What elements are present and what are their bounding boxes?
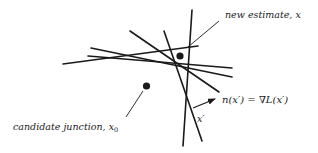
x-prime-label: x′ bbox=[197, 113, 205, 124]
edge-line-6 bbox=[183, 10, 192, 146]
new-estimate-label: new estimate, x bbox=[225, 9, 301, 20]
new-estimate-point bbox=[176, 52, 183, 59]
normal-gradient-equation: n(x′) = ∇L(x′) bbox=[222, 94, 288, 105]
candidate-junction-leader bbox=[126, 91, 143, 117]
candidate-junction-text: candidate junction, x bbox=[13, 121, 115, 132]
normal-vector-arrow bbox=[193, 99, 215, 108]
candidate-junction-point bbox=[143, 82, 150, 89]
candidate-junction-label: candidate junction, x0 bbox=[13, 121, 118, 134]
candidate-junction-subscript: 0 bbox=[114, 126, 118, 134]
junction-estimation-diagram: new estimate, x candidate junction, x0 n… bbox=[0, 0, 318, 153]
new-estimate-leader bbox=[188, 21, 219, 47]
